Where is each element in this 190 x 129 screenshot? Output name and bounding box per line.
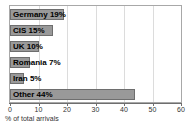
- x-axis-tick-label: 40: [120, 106, 128, 113]
- x-axis-title: % of total arrivals: [5, 115, 59, 122]
- bar-data-label: UK 10%: [13, 41, 43, 52]
- x-axis-tick-label: 60: [177, 106, 185, 113]
- bar-data-label: CIS 15%: [13, 25, 45, 36]
- bar-data-label: Iran 5%: [13, 73, 41, 84]
- bar-row: Other 44%: [10, 89, 181, 100]
- bar-data-label: Other 44%: [13, 89, 53, 100]
- bar-series: Germany 19%CIS 15%UK 10%Romania 7%Iran 5…: [10, 6, 181, 102]
- bar-data-label: Romania 7%: [13, 57, 61, 68]
- x-axis-tick-label: 0: [8, 106, 12, 113]
- bar-chart-figure: Germany 19%CIS 15%UK 10%Romania 7%Iran 5…: [0, 0, 190, 129]
- plot-area: Germany 19%CIS 15%UK 10%Romania 7%Iran 5…: [9, 5, 182, 103]
- bar-row: Germany 19%: [10, 9, 181, 20]
- bar-row: UK 10%: [10, 41, 181, 52]
- bar-row: Romania 7%: [10, 57, 181, 68]
- x-axis-tick-label: 30: [92, 106, 100, 113]
- x-axis-tick-label: 20: [63, 106, 71, 113]
- bar-row: Iran 5%: [10, 73, 181, 84]
- x-axis-tick-label: 50: [149, 106, 157, 113]
- bar-data-label: Germany 19%: [13, 9, 66, 20]
- bar-row: CIS 15%: [10, 25, 181, 36]
- x-axis-tick-label: 10: [35, 106, 43, 113]
